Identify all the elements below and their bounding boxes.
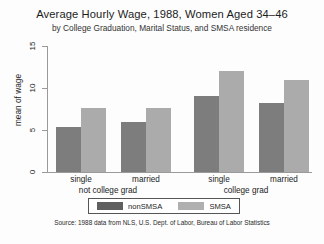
legend-label-nonsmsa: nonSMSA	[128, 202, 162, 211]
x-tick-label-college-single: single	[196, 175, 242, 184]
source-note: Source: 1988 data from NLS, U.S. Dept. o…	[0, 219, 324, 226]
y-tick-mark-15	[42, 46, 47, 47]
bar-college-married-nonsmsa	[259, 103, 284, 172]
bar-notcollege-married-nonsmsa	[121, 122, 146, 172]
y-tick-mark-10	[42, 88, 47, 89]
bar-notcollege-married-smsa	[146, 108, 171, 172]
y-tick-label-0-wrap: 0	[26, 166, 38, 178]
chart-subtitle: by College Graduation, Marital Status, a…	[0, 23, 324, 33]
legend-label-smsa: SMSA	[209, 202, 231, 211]
bar-college-single-nonsmsa	[194, 96, 219, 172]
legend-item-nonsmsa[interactable]: nonSMSA	[97, 202, 162, 211]
bar-notcollege-single-nonsmsa	[56, 127, 81, 172]
y-tick-mark-0	[42, 172, 47, 173]
legend-swatch-nonsmsa	[97, 202, 123, 210]
y-tick-label-15: 15	[28, 42, 37, 51]
bar-college-married-smsa	[284, 80, 309, 172]
plot-area	[48, 46, 312, 172]
legend-item-smsa[interactable]: SMSA	[178, 202, 231, 211]
y-tick-label-10-wrap: 10	[26, 82, 38, 94]
y-tick-mark-5	[42, 130, 47, 131]
chart-legend: nonSMSA SMSA	[88, 198, 240, 214]
y-tick-label-0: 0	[28, 170, 37, 174]
y-tick-label-5: 5	[28, 128, 37, 132]
legend-swatch-smsa	[178, 202, 204, 210]
y-axis-label: mean of wage	[13, 65, 23, 135]
bar-college-single-smsa	[219, 71, 244, 172]
group-label-college-grad: college grad	[191, 186, 301, 195]
x-tick-label-notcollege-single: single	[58, 175, 104, 184]
y-tick-label-10: 10	[28, 84, 37, 93]
chart-title: Average Hourly Wage, 1988, Women Aged 34…	[0, 8, 324, 20]
x-axis-line	[47, 172, 312, 173]
y-tick-label-15-wrap: 15	[26, 40, 38, 52]
x-tick-label-notcollege-married: married	[123, 175, 169, 184]
x-tick-label-college-married: married	[261, 175, 307, 184]
bar-notcollege-single-smsa	[81, 108, 106, 172]
chart-figure: Average Hourly Wage, 1988, Women Aged 34…	[0, 0, 324, 244]
y-tick-label-5-wrap: 5	[26, 124, 38, 136]
group-label-not-college-grad: not college grad	[53, 186, 163, 195]
